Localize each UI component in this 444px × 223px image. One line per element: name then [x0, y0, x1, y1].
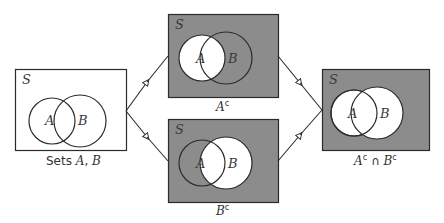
arrow-b-complement-to-intersection — [278, 135, 300, 161]
panel-sets: S A B Sets A, B — [16, 70, 127, 169]
caption: Ac ∩ Bc — [353, 153, 397, 168]
caption: Sets A, B — [46, 154, 101, 168]
label-b: B — [77, 113, 88, 128]
label-b: B — [227, 156, 238, 171]
universe-label: S — [175, 17, 184, 32]
panel-a-complement: S A B Ac — [169, 15, 279, 115]
caption: Bc — [215, 203, 229, 218]
label-b: B — [379, 106, 390, 121]
label-a: A — [347, 106, 357, 121]
circle-b — [200, 137, 252, 189]
arrow-sets-to-a-complement — [126, 82, 147, 111]
label-a: A — [195, 51, 205, 66]
universe-label: S — [329, 72, 338, 87]
label-b: B — [227, 51, 238, 66]
panel-b-complement: S A B Bc — [169, 120, 279, 219]
caption: Ac — [215, 99, 229, 114]
label-a: A — [195, 156, 205, 171]
arrow-sets-to-b-complement — [126, 111, 147, 137]
universe-label: S — [22, 72, 31, 87]
arrow-a-complement-to-intersection — [278, 56, 300, 83]
label-a: A — [44, 113, 54, 128]
universe-label: S — [175, 122, 184, 137]
panel-intersection: S A B Ac ∩ Bc — [323, 70, 430, 169]
venn-diagram: S A B Sets A, B S A B Ac S A B Bc S — [0, 0, 444, 223]
